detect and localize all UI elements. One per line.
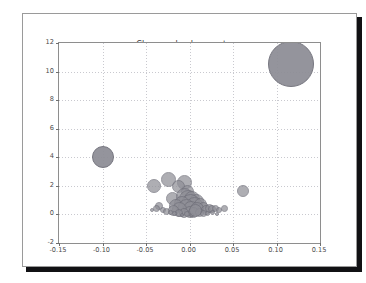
scatter-bubble xyxy=(189,204,202,217)
x-axis-tick-label: 0.00 xyxy=(181,246,196,254)
y-axis-tick-label: 8 xyxy=(32,95,54,103)
y-axis-tick xyxy=(56,186,59,187)
chart-card: Close and volume returns -2024681012-0.1… xyxy=(22,13,357,267)
y-axis-tick-label: 12 xyxy=(32,38,54,46)
x-axis-tick-label: 0.15 xyxy=(312,246,327,254)
y-axis-tick-label: -2 xyxy=(32,238,54,246)
y-axis-tick-label: 2 xyxy=(32,181,54,189)
matplotlib-figure: Close and volume returns -2024681012-0.1… xyxy=(23,14,358,268)
y-axis-tick-label: 6 xyxy=(32,124,54,132)
x-axis-tick-label: 0.10 xyxy=(268,246,283,254)
y-axis-tick xyxy=(56,157,59,158)
x-axis-tick-label: -0.05 xyxy=(136,246,153,254)
scatter-bubble xyxy=(150,208,154,212)
scatter-bubble xyxy=(153,205,160,212)
y-axis-tick-label: 0 xyxy=(32,209,54,217)
y-axis-tick xyxy=(56,214,59,215)
x-axis-tick-label: -0.15 xyxy=(49,246,66,254)
x-axis-tick-label: -0.10 xyxy=(93,246,110,254)
y-axis-tick-label: 4 xyxy=(32,152,54,160)
scatter-bubble xyxy=(147,179,161,193)
scatter-bubble xyxy=(180,213,184,217)
y-axis-tick xyxy=(56,100,59,101)
scatter-bubble xyxy=(268,43,314,87)
scatter-bubble xyxy=(221,205,228,212)
scatter-points-layer xyxy=(59,43,320,243)
y-axis-tick xyxy=(56,43,59,44)
scatter-bubble xyxy=(92,146,114,168)
y-axis-tick-label: 10 xyxy=(32,67,54,75)
screenshot-root: Close and volume returns -2024681012-0.1… xyxy=(0,0,366,283)
plot-axes xyxy=(58,42,321,244)
y-axis-tick xyxy=(56,72,59,73)
x-axis-tick-label: 0.05 xyxy=(225,246,240,254)
scatter-bubble xyxy=(237,185,249,197)
scatter-bubble xyxy=(215,212,219,216)
y-axis-tick xyxy=(56,129,59,130)
